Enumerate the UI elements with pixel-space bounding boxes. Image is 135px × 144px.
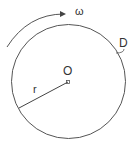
rotation-arrow-icon <box>7 14 64 47</box>
radius-label: r <box>33 83 37 95</box>
center-label: O <box>63 64 72 78</box>
disc-label: D <box>119 36 128 50</box>
radius-line <box>19 82 68 108</box>
rotating-disc-diagram: ω D O r <box>0 0 135 144</box>
omega-label: ω <box>75 5 84 17</box>
